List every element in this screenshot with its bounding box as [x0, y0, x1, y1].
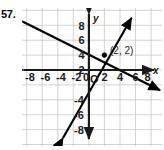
x-tick-minus8: -8: [25, 71, 35, 83]
coordinate-plane: y x -8 -6 -4 -2 0 O 2 4 6 8 8 6 4 2 -4 -…: [22, 8, 162, 146]
problem-number-label: 57.: [1, 8, 15, 20]
x-axis-label: x: [152, 65, 159, 76]
coordinate-plane-svg: y x -8 -6 -4 -2 0 O 2 4 6 8 8 6 4 2 -4 -…: [22, 8, 162, 146]
y-tick-4: 4: [79, 49, 86, 61]
y-tick-minus4: -4: [74, 94, 85, 106]
x-tick-minus4: -4: [56, 71, 67, 83]
y-tick-minus6: -6: [74, 109, 84, 121]
y-axis-label: y: [92, 13, 99, 24]
y-tick-minus8: -8: [74, 124, 84, 136]
y-tick-2-render: 2: [79, 64, 85, 76]
x-tick-minus6: -6: [41, 71, 51, 83]
x-tick-4: 4: [117, 71, 124, 83]
y-tick-6: 6: [79, 34, 85, 46]
x-tick-6: 6: [133, 71, 139, 83]
y-tick-8: 8: [79, 20, 85, 32]
intersection-point: [102, 53, 107, 58]
x-tick-2: 2: [102, 71, 108, 83]
origin-label: O: [90, 73, 99, 85]
x-tick-8: 8: [145, 71, 151, 83]
intersection-point-label: (2, 2): [110, 45, 133, 56]
graph-figure: 57.: [0, 0, 164, 150]
